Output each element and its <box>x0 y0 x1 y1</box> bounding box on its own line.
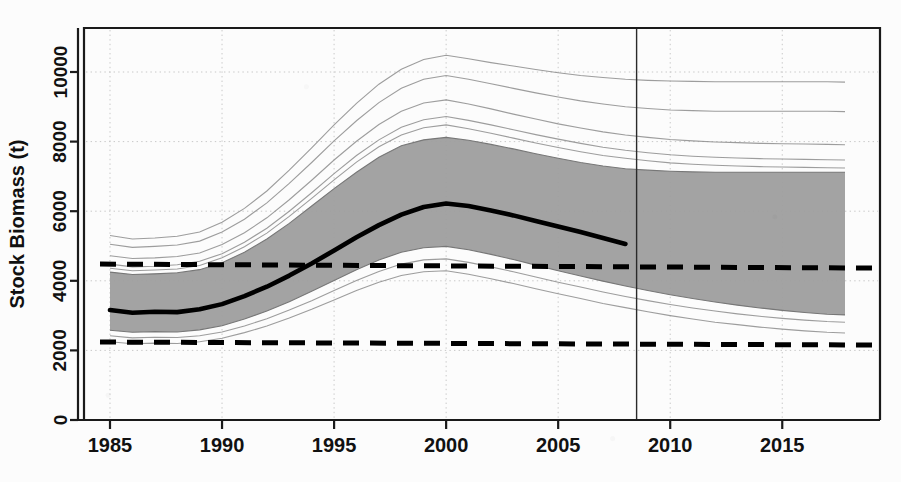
y-axis-title: Stock Biomass (t) <box>6 140 28 309</box>
y-tick-label-0: 0 <box>50 415 71 426</box>
y-tick-label-6000: 6000 <box>50 190 71 232</box>
x-tick-label-1995: 1995 <box>312 434 357 456</box>
stock-biomass-projection-chart: 0200040006000800010000198519901995200020… <box>0 0 901 482</box>
x-tick-label-2000: 2000 <box>424 434 469 456</box>
x-tick-label-2005: 2005 <box>536 434 581 456</box>
chart-screenshot: 0200040006000800010000198519901995200020… <box>0 0 901 482</box>
chart-svg: 0200040006000800010000198519901995200020… <box>0 0 901 482</box>
x-tick-label-1985: 1985 <box>88 434 133 456</box>
y-tick-label-2000: 2000 <box>50 329 71 371</box>
lower-reference-line <box>100 342 876 345</box>
x-tick-label-2010: 2010 <box>648 434 693 456</box>
x-tick-label-1990: 1990 <box>200 434 245 456</box>
y-tick-label-10000: 10000 <box>50 46 71 99</box>
y-tick-label-8000: 8000 <box>50 120 71 162</box>
x-tick-label-2015: 2015 <box>760 434 805 456</box>
y-tick-label-4000: 4000 <box>50 260 71 302</box>
